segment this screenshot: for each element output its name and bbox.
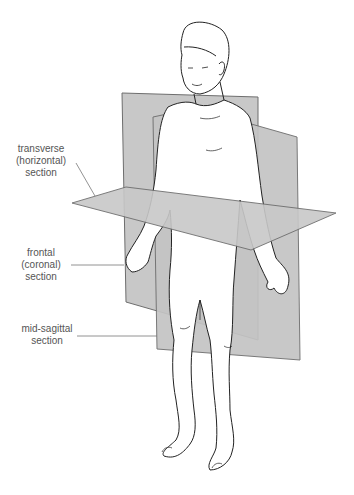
label-mid-sagittal-section: mid-sagittal section [18, 323, 76, 347]
head [181, 22, 229, 94]
label-frontal-section: frontal (coronal) section [12, 247, 70, 283]
label-transverse-section: transverse (horizontal) section [8, 143, 74, 179]
human-figure [126, 22, 289, 470]
transverse-leader [76, 163, 95, 196]
